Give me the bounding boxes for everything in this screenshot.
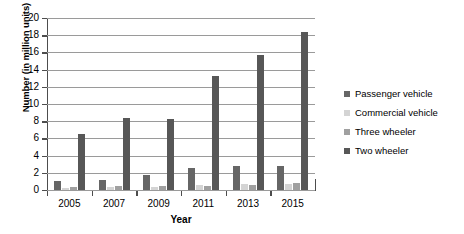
bar: [78, 134, 85, 190]
gridline: [47, 18, 315, 19]
legend-swatch-icon: [344, 129, 350, 135]
x-tick-mark: [270, 191, 271, 196]
legend-item: Passenger vehicle: [344, 84, 438, 103]
x-tick-label: 2015: [271, 198, 315, 209]
gridline: [47, 156, 315, 157]
bar: [54, 181, 61, 190]
bar: [70, 187, 77, 190]
bar: [293, 183, 300, 190]
bar: [107, 187, 114, 190]
y-tick-label: 8: [9, 116, 39, 126]
bar: [151, 187, 158, 190]
y-tick-label: 18: [9, 30, 39, 40]
legend-label: Passenger vehicle: [355, 88, 433, 99]
y-tick-label: 6: [9, 133, 39, 143]
gridline: [47, 138, 315, 139]
chart-legend: Passenger vehicleCommercial vehicleThree…: [344, 84, 438, 160]
y-tick-label: 2: [9, 168, 39, 178]
x-tick-mark: [47, 191, 48, 196]
gridline: [47, 35, 315, 36]
bar: [167, 119, 174, 190]
y-tick-label: 12: [9, 82, 39, 92]
gridline: [47, 52, 315, 53]
y-tick-label: 4: [9, 151, 39, 161]
bar-group-2013: [233, 18, 265, 190]
legend-label: Two wheeler: [355, 145, 408, 156]
x-tick-label: 2013: [226, 198, 270, 209]
legend-label: Commercial vehicle: [355, 107, 438, 118]
bar: [62, 188, 69, 190]
y-tick-label: 14: [9, 65, 39, 75]
gridline: [47, 104, 315, 105]
x-axis-title: Year: [47, 214, 315, 225]
x-axis-right-cap: [315, 179, 316, 191]
x-tick-mark: [136, 191, 137, 196]
x-tick-label: 2005: [47, 198, 91, 209]
bar: [233, 166, 240, 190]
bar: [285, 184, 292, 190]
bar: [257, 55, 264, 190]
bar: [241, 184, 248, 190]
bar-chart: Number (in million units) 02468101214161…: [0, 0, 464, 234]
gridline: [47, 173, 315, 174]
bar: [212, 76, 219, 190]
x-tick-mark: [181, 191, 182, 196]
bar-group-2007: [99, 18, 131, 190]
bar: [115, 186, 122, 190]
x-tick-label: 2011: [181, 198, 225, 209]
bar: [277, 166, 284, 190]
bar-group-2009: [143, 18, 175, 190]
gridline: [47, 121, 315, 122]
x-tick-mark: [226, 191, 227, 196]
legend-item: Commercial vehicle: [344, 103, 438, 122]
bar-group-2005: [54, 18, 86, 190]
legend-swatch-icon: [344, 110, 350, 116]
y-tick-label: 20: [9, 13, 39, 23]
gridline: [47, 87, 315, 88]
bar: [204, 186, 211, 190]
bar-group-2011: [188, 18, 220, 190]
y-tick-label: 16: [9, 47, 39, 57]
gridline: [47, 70, 315, 71]
bar: [196, 185, 203, 190]
y-tick-label: 10: [9, 99, 39, 109]
bar: [143, 175, 150, 190]
bar: [301, 32, 308, 190]
x-tick-label: 2009: [137, 198, 181, 209]
y-tick-label: 0: [9, 185, 39, 195]
bar: [99, 180, 106, 190]
plot-area: [47, 18, 315, 190]
bar: [249, 185, 256, 190]
legend-swatch-icon: [344, 148, 350, 154]
legend-item: Three wheeler: [344, 122, 438, 141]
legend-swatch-icon: [344, 91, 350, 97]
bar: [188, 168, 195, 190]
bar: [159, 186, 166, 190]
legend-label: Three wheeler: [355, 126, 416, 137]
x-tick-mark: [92, 191, 93, 196]
bar-group-2015: [277, 18, 309, 190]
bar: [123, 118, 130, 190]
legend-item: Two wheeler: [344, 141, 438, 160]
x-tick-label: 2007: [92, 198, 136, 209]
